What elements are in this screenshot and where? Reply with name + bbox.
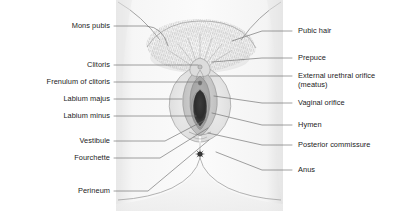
label-vaginal-orifice: Vaginal orifice <box>298 99 345 108</box>
leader-fourchette <box>114 128 208 158</box>
label-labium-minus: Labium minus <box>28 112 110 121</box>
leader-prepuce <box>212 58 292 62</box>
label-posterior-commissure: Posterior commissure <box>298 141 370 150</box>
label-external-urethral-meatus: (meatus) <box>298 81 328 90</box>
label-pubic-hair: Pubic hair <box>298 27 331 36</box>
leader-perineum <box>114 140 209 191</box>
label-mons-pubis: Mons pubis <box>28 22 110 31</box>
label-anus: Anus <box>298 166 315 175</box>
anatomical-diagram: Mons pubis Clitoris Frenulum of clitoris… <box>0 0 395 211</box>
label-vestibule: Vestibule <box>44 137 110 146</box>
label-labium-majus: Labium majus <box>28 95 110 104</box>
leader-vaginal-orifice <box>214 96 292 103</box>
label-perineum: Perineum <box>44 187 110 196</box>
label-clitoris: Clitoris <box>48 61 110 70</box>
leader-vestibule <box>114 120 205 141</box>
label-fourchette: Fourchette <box>40 154 110 163</box>
label-prepuce: Prepuce <box>298 54 326 63</box>
leader-posterior-commissure <box>208 133 292 145</box>
leader-pubic-hair <box>232 31 292 41</box>
label-frenulum-of-clitoris: Frenulum of clitoris <box>10 78 110 87</box>
leader-anus <box>216 152 292 170</box>
leader-mons-pubis <box>114 26 168 46</box>
label-hymen: Hymen <box>298 121 322 130</box>
leader-hymen <box>212 113 292 125</box>
